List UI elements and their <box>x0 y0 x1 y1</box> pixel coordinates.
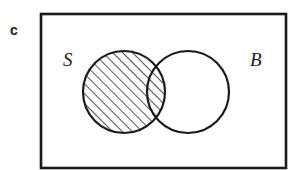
venn-diagram-figure: c S B <box>0 0 294 170</box>
set-label-b: B <box>250 49 262 70</box>
panel-label-c: c <box>10 22 18 38</box>
venn-diagram-canvas: c S B <box>0 0 294 170</box>
set-label-s: S <box>63 49 73 70</box>
